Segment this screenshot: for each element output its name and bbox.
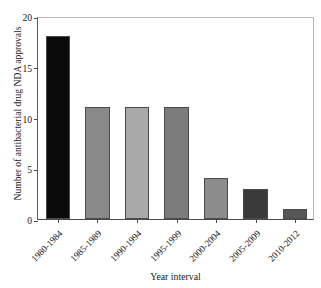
x-axis-tick-mark (177, 219, 178, 223)
x-axis-tick-mark (216, 219, 217, 223)
x-axis-tick-mark (137, 219, 138, 223)
x-axis-title: Year interval (37, 271, 314, 282)
x-axis-tick-mark (58, 219, 59, 223)
y-axis-tick-label: 10 (22, 115, 34, 125)
y-axis-tick-label: 0 (27, 216, 34, 226)
y-axis-title: Number of antibacterial drug NDA approva… (12, 9, 23, 219)
y-axis-tick: 10 (22, 115, 38, 125)
bar (164, 107, 189, 219)
plot-area: 05101520 1980-19841985-19891990-19941995… (37, 17, 314, 220)
bar-chart: Number of antibacterial drug NDA approva… (0, 0, 321, 288)
x-axis-tick-mark (256, 219, 257, 223)
bar (204, 178, 229, 219)
x-axis-tick-mark (97, 219, 98, 223)
bar (243, 189, 268, 219)
y-axis-tick: 15 (22, 64, 38, 74)
y-axis-tick-mark (34, 221, 38, 222)
bars-layer (38, 18, 313, 219)
bar (125, 107, 150, 219)
y-axis-tick-label: 5 (27, 165, 34, 175)
y-axis-tick-label: 15 (22, 64, 34, 74)
bar (283, 209, 308, 219)
y-axis-tick-label: 20 (22, 13, 34, 23)
bar (85, 107, 110, 219)
x-axis-tick-mark (295, 219, 296, 223)
y-axis-tick: 5 (27, 165, 38, 175)
bar (46, 36, 71, 219)
y-axis-tick: 0 (27, 216, 38, 226)
y-axis-tick: 20 (22, 13, 38, 23)
